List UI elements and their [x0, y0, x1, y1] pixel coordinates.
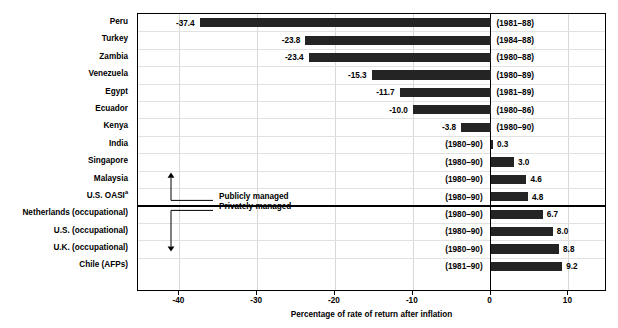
x-tick-label--40: -40 [172, 296, 184, 305]
x-tick--30 [256, 291, 257, 295]
y-axis-category-labels: PeruTurkeyZambiaVenezuelaEgyptEcuadorKen… [0, 13, 133, 274]
x-tick-0 [490, 291, 491, 295]
y-axis-label-turkey: Turkey [0, 30, 133, 47]
y-axis-label-kenya: Kenya [0, 117, 133, 134]
x-axis-title: Percentage of rate of return after infla… [137, 310, 606, 319]
y-axis-label-malaysia: Malaysia [0, 170, 133, 187]
annotation-label-publicly-managed: Publicly managed [219, 192, 289, 201]
privately-managed-arrow-head [168, 246, 175, 251]
y-axis-label-u-s-occupational: U.S. (occupational) [0, 222, 133, 239]
x-tick--10 [412, 291, 413, 295]
x-tick-10 [567, 291, 568, 295]
chart-container: PeruTurkeyZambiaVenezuelaEgyptEcuadorKen… [0, 0, 618, 328]
y-axis-label-egypt: Egypt [0, 83, 133, 100]
publicly-managed-arrow-head [168, 173, 175, 178]
x-tick-label-10: 10 [563, 296, 572, 305]
y-axis-label-u-k-occupational: U.K. (occupational) [0, 239, 133, 256]
y-axis-label-ecuador: Ecuador [0, 100, 133, 117]
footnote-marker: a [125, 189, 128, 195]
x-axis: -40-30-20-10010 Percentage of rate of re… [137, 291, 606, 325]
x-tick--40 [178, 291, 179, 295]
plot-area: -37.4(1981–88)-23.8(1984–88)-23.4(1980–8… [137, 13, 606, 291]
annotation-label-privately-managed: Privately managed [219, 202, 291, 211]
y-axis-label-singapore: Singapore [0, 152, 133, 169]
y-axis-label-u-s-oasi: U.S. OASIa [0, 187, 133, 204]
x-tick-label-0: 0 [487, 296, 492, 305]
annotation-arrows [138, 14, 607, 275]
y-axis-label-zambia: Zambia [0, 48, 133, 65]
x-tick--20 [334, 291, 335, 295]
x-tick-label--10: -10 [406, 296, 418, 305]
x-tick-label--20: -20 [328, 296, 340, 305]
y-axis-label-chile-afps: Chile (AFPs) [0, 256, 133, 273]
y-axis-label-peru: Peru [0, 13, 133, 30]
y-axis-label-venezuela: Venezuela [0, 65, 133, 82]
y-axis-label-netherlands-occupational: Netherlands (occupational) [0, 204, 133, 221]
y-axis-label-india: India [0, 135, 133, 152]
x-tick-label--30: -30 [250, 296, 262, 305]
